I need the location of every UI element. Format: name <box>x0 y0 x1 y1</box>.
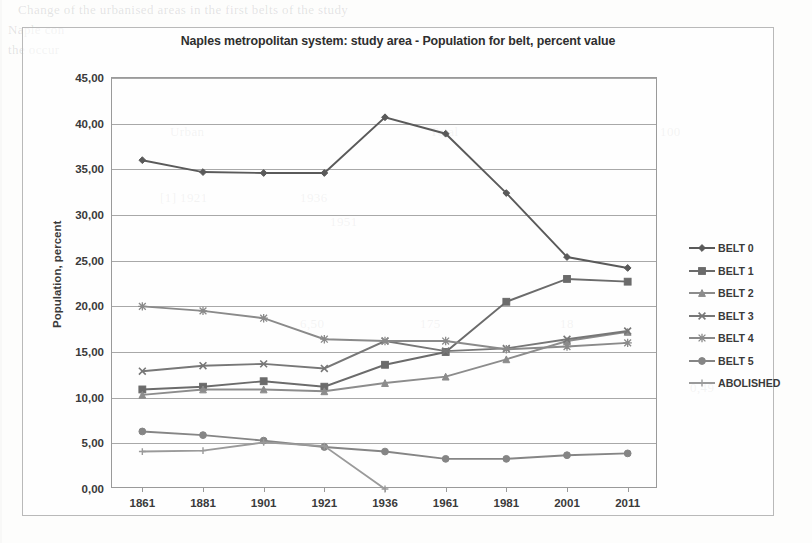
series-marker <box>138 302 146 310</box>
x-tick-label: 1881 <box>190 497 216 509</box>
legend-label: BELT 4 <box>718 332 754 344</box>
legend-item-abolished[interactable]: ABOLISHED <box>689 372 805 395</box>
series-marker <box>503 298 510 305</box>
legend-key-icon <box>689 287 715 299</box>
series-lines <box>112 78 658 489</box>
legend-label: BELT 0 <box>718 242 754 254</box>
legend-key-icon <box>689 265 715 277</box>
legend-label: BELT 3 <box>718 310 754 322</box>
series-marker <box>200 169 207 176</box>
legend-item-belt-0[interactable]: BELT 0 <box>689 237 805 260</box>
x-tick-label: 1861 <box>130 497 156 509</box>
series-marker <box>259 314 267 322</box>
chart-legend: BELT 0BELT 1BELT 2BELT 3BELT 4BELT 5ABOL… <box>689 237 805 395</box>
series-marker <box>139 428 146 435</box>
legend-label: ABOLISHED <box>718 377 780 389</box>
series-marker <box>139 448 146 455</box>
legend-item-belt-5[interactable]: BELT 5 <box>689 350 805 373</box>
series-marker <box>442 455 449 462</box>
series-marker <box>260 170 267 177</box>
series-marker <box>260 378 267 385</box>
series-marker <box>564 276 571 283</box>
legend-key-icon <box>689 242 715 254</box>
y-tick-label: 30,00 <box>75 209 104 221</box>
series-marker <box>382 361 389 368</box>
series-marker <box>382 448 389 455</box>
y-tick-label: 0,00 <box>82 483 104 495</box>
series-marker <box>441 337 449 345</box>
x-tick-label: 1921 <box>312 497 338 509</box>
series-marker <box>624 450 631 457</box>
legend-key-icon <box>689 377 715 389</box>
x-tick-label: 1961 <box>433 497 459 509</box>
series-line <box>142 117 627 268</box>
chart-frame: Naples metropolitan system: study area -… <box>22 27 774 516</box>
series-marker <box>200 447 207 454</box>
y-tick-label: 20,00 <box>75 300 104 312</box>
legend-label: BELT 5 <box>718 355 754 367</box>
legend-item-belt-3[interactable]: BELT 3 <box>689 305 805 328</box>
series-marker <box>564 452 571 459</box>
legend-item-belt-1[interactable]: BELT 1 <box>689 260 805 283</box>
x-tick-label: 2001 <box>554 497 580 509</box>
y-axis-label: Population, percent <box>51 221 63 328</box>
series-marker <box>624 278 631 285</box>
x-tick-label: 1936 <box>372 497 398 509</box>
plot-area: 0,005,0010,0015,0020,0025,0030,0035,0040… <box>111 77 657 488</box>
series-marker <box>139 157 146 164</box>
series-marker <box>502 345 510 353</box>
y-tick-label: 5,00 <box>82 437 104 449</box>
x-tick-label: 1981 <box>494 497 520 509</box>
series-marker <box>623 339 631 347</box>
series-marker <box>320 335 328 343</box>
legend-label: BELT 1 <box>718 265 754 277</box>
series-marker <box>199 307 207 315</box>
series-marker <box>200 432 207 439</box>
y-tick-label: 40,00 <box>75 118 104 130</box>
legend-item-belt-4[interactable]: BELT 4 <box>689 327 805 350</box>
series-marker <box>624 265 631 272</box>
x-tick-label: 2011 <box>615 497 640 509</box>
y-tick-label: 10,00 <box>75 392 104 404</box>
legend-key-icon <box>689 355 715 367</box>
x-tick-label: 1901 <box>251 497 277 509</box>
y-tick-label: 25,00 <box>75 255 104 267</box>
y-tick-label: 45,00 <box>75 72 104 84</box>
y-tick-label: 15,00 <box>75 346 104 358</box>
legend-label: BELT 2 <box>718 287 754 299</box>
series-marker <box>563 342 571 350</box>
legend-key-icon <box>689 332 715 344</box>
legend-key-icon <box>689 310 715 322</box>
y-tick-label: 35,00 <box>75 163 104 175</box>
series-line <box>142 279 627 390</box>
series-marker <box>381 337 389 345</box>
series-marker <box>503 455 510 462</box>
legend-item-belt-2[interactable]: BELT 2 <box>689 282 805 305</box>
chart-title: Naples metropolitan system: study area -… <box>23 34 773 48</box>
